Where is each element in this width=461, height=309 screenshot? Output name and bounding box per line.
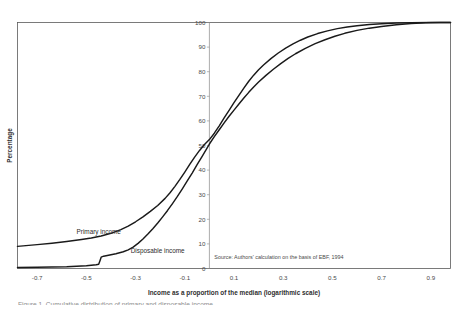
x-tick-label-0.5: 0.5 <box>328 274 337 281</box>
primary-income-label: Primary income <box>77 228 122 236</box>
disposable-income-label: Disposable income <box>131 247 185 255</box>
x-tick-label--0.5: -0.5 <box>81 274 92 281</box>
x-tick-label-0.3: 0.3 <box>279 274 288 281</box>
y-tick-label-90: 90 <box>199 43 206 50</box>
y-tick-label-0: 0 <box>202 265 206 272</box>
y-tick-label-20: 20 <box>199 216 206 223</box>
y-tick-label-30: 30 <box>199 191 206 198</box>
figure-container: 0102030405060708090100-0.7-0.5-0.3-0.10.… <box>0 0 461 309</box>
x-tick-label--0.3: -0.3 <box>130 274 141 281</box>
figure-caption: Figure 1. Cumulative distribution of pri… <box>18 300 443 305</box>
x-tick-label--0.7: -0.7 <box>32 274 43 281</box>
y-tick-label-10: 10 <box>199 240 206 247</box>
x-tick-label-0.9: 0.9 <box>427 274 436 281</box>
x-axis-title: Income as a proportion of the median (lo… <box>148 289 320 297</box>
source-note: Source: Authors' calculation on the basi… <box>214 254 343 260</box>
y-tick-label-80: 80 <box>199 68 206 75</box>
y-tick-label-60: 60 <box>199 117 206 124</box>
income-distribution-chart: 0102030405060708090100-0.7-0.5-0.3-0.10.… <box>0 0 461 309</box>
y-tick-label-70: 70 <box>199 93 206 100</box>
x-tick-label--0.1: -0.1 <box>179 274 190 281</box>
x-tick-label-0.7: 0.7 <box>377 274 386 281</box>
y-tick-label-100: 100 <box>195 19 206 26</box>
y-tick-label-40: 40 <box>199 166 206 173</box>
y-axis-title: Percentage <box>6 128 14 163</box>
x-tick-label-0.1: 0.1 <box>230 274 239 281</box>
series-line-primary-income <box>18 23 451 247</box>
